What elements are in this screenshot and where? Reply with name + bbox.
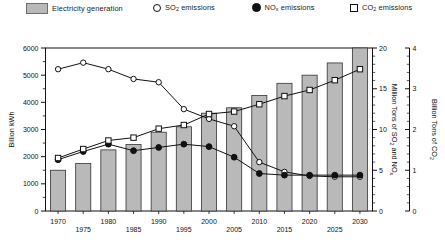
right-axis1-tick-label: 15: [379, 85, 387, 92]
right-axis2-tick-label: 1: [413, 167, 417, 174]
left-axis-tick-label: 2000: [23, 153, 39, 160]
bar-electricity-generation: [76, 163, 91, 211]
right-axis1-tick-label: 10: [379, 126, 387, 133]
right-axis2-tick-label: 0: [413, 208, 417, 215]
x-axis-tick-label: 1990: [151, 218, 167, 225]
x-axis-tick-label: 1980: [101, 218, 117, 225]
marker-filled-circle-icon: [181, 141, 187, 147]
bar-electricity-generation: [201, 113, 216, 211]
marker-open-circle-icon: [181, 106, 186, 111]
x-axis-tick-label: 2015: [277, 226, 293, 233]
x-axis-tick-label: 1985: [126, 226, 142, 233]
marker-filled-circle-icon: [131, 148, 137, 154]
marker-filled-circle-icon: [256, 171, 262, 177]
right-axis2-title: Billion Tons of CO2: [429, 99, 439, 160]
marker-filled-circle-icon: [156, 145, 162, 151]
marker-open-circle-icon: [156, 80, 161, 85]
x-axis-tick-label: 2020: [302, 218, 318, 225]
marker-filled-circle-icon: [206, 144, 212, 150]
bar-electricity-generation: [302, 75, 317, 211]
bar-electricity-generation: [176, 127, 191, 211]
x-axis-tick-label: 2005: [226, 226, 242, 233]
right-axis2-tick-label: 3: [413, 85, 417, 92]
marker-open-square-icon: [131, 135, 136, 140]
marker-filled-circle-icon: [282, 172, 288, 178]
marker-filled-circle-icon: [357, 172, 363, 178]
marker-open-circle-icon: [106, 66, 111, 71]
chart-figure: Electricity generation SO2 emissions NOx…: [0, 0, 445, 246]
x-axis-tick-label: 2025: [327, 226, 343, 233]
marker-open-square-icon: [307, 87, 312, 92]
marker-open-circle-icon: [55, 66, 60, 71]
x-axis-tick-label: 2010: [252, 218, 268, 225]
bar-electricity-generation: [126, 144, 141, 211]
left-axis-tick-label: 4000: [23, 99, 39, 106]
marker-open-square-icon: [231, 109, 236, 114]
chart-plot-area: 0100020003000400050006000051015200123419…: [0, 0, 445, 246]
left-axis-tick-label: 0: [35, 208, 39, 215]
left-axis-title: Billion kWh: [7, 111, 16, 147]
left-axis-tick-label: 1000: [23, 180, 39, 187]
marker-filled-circle-icon: [231, 154, 237, 160]
marker-open-square-icon: [106, 138, 111, 143]
right-axis2-tick-label: 2: [413, 126, 417, 133]
bar-electricity-generation: [277, 83, 292, 211]
right-axis1-tick-label: 20: [379, 45, 387, 52]
marker-open-square-icon: [282, 93, 287, 98]
x-axis-tick-label: 1975: [75, 226, 91, 233]
marker-filled-circle-icon: [332, 172, 338, 178]
marker-open-circle-icon: [131, 76, 136, 81]
bar-electricity-generation: [252, 96, 267, 211]
right-axis2-tick-label: 4: [413, 45, 417, 52]
left-axis-tick-label: 5000: [23, 72, 39, 79]
marker-open-square-icon: [357, 66, 362, 71]
marker-open-square-icon: [181, 122, 186, 127]
marker-open-square-icon: [156, 126, 161, 131]
marker-open-square-icon: [332, 77, 337, 82]
marker-open-circle-icon: [81, 60, 86, 65]
right-axis1-tick-label: 5: [379, 167, 383, 174]
bar-electricity-generation: [51, 170, 66, 211]
marker-open-circle-icon: [257, 159, 262, 164]
marker-open-circle-icon: [231, 124, 236, 129]
x-axis-tick-label: 1970: [50, 218, 66, 225]
right-axis1-title: Million Tons of SO2 and NOx: [389, 84, 399, 176]
marker-open-square-icon: [81, 146, 86, 151]
x-axis-tick-label: 1995: [176, 226, 192, 233]
marker-open-square-icon: [55, 155, 60, 160]
left-axis-tick-label: 6000: [23, 45, 39, 52]
marker-open-square-icon: [257, 102, 262, 107]
right-axis1-tick-label: 0: [379, 208, 383, 215]
bar-electricity-generation: [352, 48, 367, 211]
x-axis-tick-label: 2030: [352, 218, 368, 225]
chart-svg: 0100020003000400050006000051015200123419…: [0, 0, 445, 246]
marker-filled-circle-icon: [307, 172, 313, 178]
marker-open-square-icon: [206, 111, 211, 116]
x-axis-tick-label: 2000: [201, 218, 217, 225]
bar-electricity-generation: [101, 150, 116, 211]
left-axis-tick-label: 3000: [23, 126, 39, 133]
bar-electricity-generation: [327, 63, 342, 211]
